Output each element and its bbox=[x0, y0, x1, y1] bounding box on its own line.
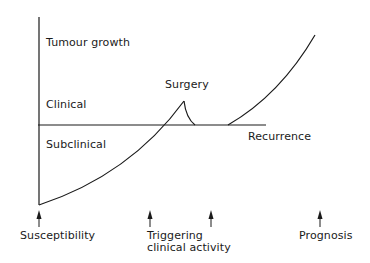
recurrence-label: Recurrence bbox=[248, 130, 311, 143]
arrow-up-icon bbox=[318, 210, 323, 227]
subclinical-zone-label: Subclinical bbox=[46, 138, 106, 151]
arrow-up-icon bbox=[209, 210, 214, 227]
marker-prognosis-label: Prognosis bbox=[299, 229, 353, 242]
marker-triggering-label-line2: clinical activity bbox=[147, 241, 231, 254]
clinical-zone-label: Clinical bbox=[46, 98, 86, 111]
surgery-drop-curve bbox=[184, 101, 195, 125]
surgery-label: Surgery bbox=[165, 78, 209, 91]
arrow-up-icon bbox=[37, 210, 42, 227]
tumour-growth-diagram: Tumour growth Clinical Subclinical Surge… bbox=[0, 0, 370, 263]
arrow-up-icon bbox=[148, 210, 153, 227]
recurrence-curve bbox=[228, 35, 315, 125]
y-axis-label: Tumour growth bbox=[46, 36, 130, 49]
marker-susceptibility-label: Susceptibility bbox=[20, 229, 95, 242]
growth-curve-pre-surgery bbox=[39, 101, 184, 205]
